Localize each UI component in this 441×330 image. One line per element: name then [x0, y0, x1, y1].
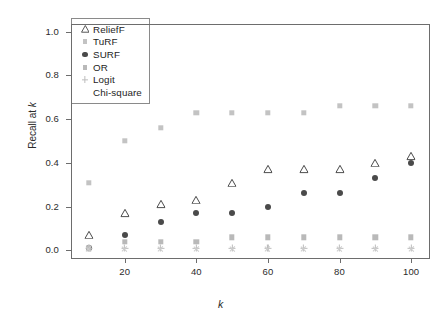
triangle-marker-icon: [299, 165, 308, 173]
triangle-marker-icon: [84, 231, 93, 239]
legend: ReliefFTuRFSURFORLogitChi-square: [71, 18, 150, 104]
data-point: [194, 239, 199, 244]
cross-marker-icon: [121, 246, 128, 253]
data-point: [192, 196, 201, 204]
square-marker-icon: [194, 239, 199, 244]
square-marker-icon: [86, 180, 91, 185]
circle-marker-icon: [193, 210, 199, 216]
legend-item-logit: Logit: [77, 73, 142, 86]
cross-marker-icon: [336, 246, 343, 253]
x-axis-tick-label: 80: [320, 266, 360, 277]
cross-marker-icon: [193, 246, 200, 253]
y-axis-tick-label: 0.2: [27, 201, 59, 212]
data-point: [84, 231, 93, 239]
data-point: [372, 246, 379, 253]
cross-marker-icon: [229, 246, 236, 253]
data-point: [263, 165, 272, 173]
data-point: [301, 235, 306, 240]
x-axis-tick-label: 20: [105, 266, 145, 277]
circle-marker-icon: [158, 219, 164, 225]
circle-marker-icon: [337, 190, 343, 196]
data-point: [227, 178, 236, 186]
square-marker-icon: [265, 110, 270, 115]
legend-label: ReliefF: [93, 24, 125, 35]
square-marker-icon: [158, 239, 163, 244]
triangle-marker-icon: [120, 209, 129, 217]
y-axis-tick: [66, 75, 71, 76]
triangle-marker-icon: [335, 165, 344, 173]
plot-frame-left: [71, 24, 72, 258]
legend-label: Logit: [93, 74, 115, 85]
data-point: [299, 165, 308, 173]
y-axis-tick: [66, 163, 71, 164]
data-point: [265, 110, 270, 115]
data-point: [265, 204, 271, 210]
legend-label: TuRF: [93, 36, 118, 47]
data-point: [264, 246, 271, 253]
data-point: [336, 246, 343, 253]
square-marker-icon: [122, 239, 127, 244]
square-marker-icon: [83, 65, 88, 70]
triangle-marker-icon: [192, 196, 201, 204]
legend-label: Chi-square: [93, 87, 142, 98]
data-point: [229, 246, 236, 253]
data-point: [408, 160, 414, 166]
data-point: [156, 200, 165, 208]
y-axis-tick: [66, 250, 71, 251]
data-point: [337, 235, 342, 240]
legend-item-chi-square: Chi-square: [77, 86, 142, 99]
square-marker-icon: [373, 235, 378, 240]
square-marker-icon: [158, 125, 163, 130]
square-marker-icon: [83, 39, 88, 44]
data-point: [157, 246, 164, 253]
triangle-marker-icon: [156, 200, 165, 208]
data-point: [337, 103, 342, 108]
data-point: [373, 103, 378, 108]
data-point: [158, 239, 163, 244]
triangle-marker-icon: [227, 178, 236, 186]
x-axis-label: k: [0, 298, 441, 310]
x-axis-tick: [411, 258, 412, 263]
cross-marker-icon: [264, 246, 271, 253]
cross-marker-icon: [157, 246, 164, 253]
cross-marker-icon: [372, 246, 379, 253]
plot-frame-top: [71, 24, 429, 25]
y-axis-tick-label: 0.8: [27, 69, 59, 80]
legend-marker: [77, 25, 93, 33]
legend-marker: [77, 52, 93, 58]
data-point: [158, 219, 164, 225]
data-point: [85, 246, 92, 253]
x-axis-tick: [268, 258, 269, 263]
square-marker-icon: [337, 235, 342, 240]
legend-item-or: OR: [77, 61, 142, 74]
triangle-marker-icon: [371, 159, 380, 167]
square-marker-icon: [229, 110, 234, 115]
legend-item-surf: SURF: [77, 48, 142, 61]
data-point: [120, 209, 129, 217]
data-point: [408, 103, 413, 108]
legend-label: OR: [93, 62, 108, 73]
y-axis-tick-label: 0.0: [27, 244, 59, 255]
data-point: [122, 232, 128, 238]
data-point: [229, 210, 235, 216]
data-point: [371, 159, 380, 167]
data-point: [229, 235, 234, 240]
cross-marker-icon: [85, 246, 92, 253]
data-point: [408, 235, 413, 240]
y-axis-tick-label: 0.4: [27, 157, 59, 168]
square-marker-icon: [408, 103, 413, 108]
data-point: [194, 110, 199, 115]
square-marker-icon: [301, 235, 306, 240]
square-marker-icon: [301, 110, 306, 115]
square-marker-icon: [337, 103, 342, 108]
legend-marker: [77, 65, 93, 70]
legend-item-turf: TuRF: [77, 36, 142, 49]
circle-marker-icon: [301, 190, 307, 196]
data-point: [265, 235, 270, 240]
square-marker-icon: [265, 235, 270, 240]
circle-marker-icon: [122, 232, 128, 238]
circle-marker-icon: [229, 210, 235, 216]
square-marker-icon: [373, 103, 378, 108]
circle-marker-icon: [372, 175, 378, 181]
triangle-marker-icon: [81, 25, 90, 33]
